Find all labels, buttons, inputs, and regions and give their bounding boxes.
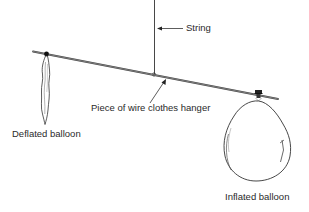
wire-pointer-line xyxy=(150,82,164,103)
inflated-balloon-label: Inflated balloon xyxy=(225,192,289,202)
deflated-balloon xyxy=(41,52,49,125)
string-pointer-arrowhead xyxy=(157,27,162,31)
wire-label: Piece of wire clothes hanger xyxy=(91,103,210,113)
balloon-balance-diagram: String Piece of wire clothes hanger Defl… xyxy=(0,0,309,212)
string-label: String xyxy=(186,23,211,33)
deflated-balloon-label: Deflated balloon xyxy=(12,129,81,139)
inflated-balloon xyxy=(224,90,291,181)
